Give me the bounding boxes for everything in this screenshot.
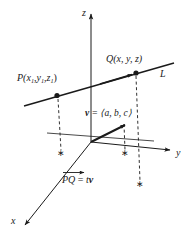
- asterisk-marker-v: ∗: [121, 148, 129, 158]
- z-axis-label: z: [81, 7, 86, 18]
- dashed-drop-v: [124, 124, 125, 150]
- pq-equals: =: [75, 174, 86, 185]
- axes-group: [25, 14, 170, 225]
- vector-v-arrow: [91, 125, 125, 142]
- point-q-dot: [133, 70, 138, 75]
- dashed-drop-q: [136, 76, 140, 181]
- diagram-root: ∗ ∗ ∗ z y x P(x1,y1,z1) Q(x, y, z) L v =…: [0, 0, 195, 238]
- point-q-label: Q(x, y, z): [106, 53, 143, 65]
- p-letter: P(: [16, 72, 27, 84]
- dashed-drop-p: [58, 99, 61, 150]
- p-close-paren: ): [54, 72, 57, 84]
- pq-equation: PQ = tv: [61, 174, 94, 185]
- line-L: [24, 63, 174, 106]
- vector-v-components: = ⟨a, b, c⟩: [89, 108, 131, 118]
- y-axis: [91, 142, 170, 150]
- asterisk-marker-p: ∗: [57, 148, 65, 158]
- pq-vector-v: v: [89, 174, 94, 185]
- pq-direction-arrow: [100, 75, 132, 85]
- pq-symbol: PQ: [61, 174, 76, 185]
- pq-equation-group: PQ = tv: [61, 173, 94, 186]
- coordinate-diagram-svg: ∗ ∗ ∗ z y x P(x1,y1,z1) Q(x, y, z) L v =…: [0, 0, 195, 238]
- y-axis-label: y: [175, 147, 181, 158]
- x-axis-label: x: [10, 215, 16, 226]
- asterisk-marker-q: ∗: [136, 179, 144, 189]
- vector-v-label: v = ⟨a, b, c⟩: [85, 108, 132, 118]
- point-p-label: P(x1,y1,z1): [16, 72, 57, 84]
- point-p-dot: [54, 93, 59, 98]
- line-name-label: L: [159, 68, 166, 79]
